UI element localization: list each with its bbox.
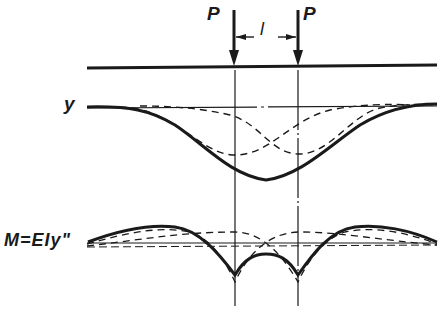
load-label-right: P (303, 4, 316, 23)
diagram-canvas: P P l y M=EIy" (0, 0, 445, 311)
spacing-label: l (260, 20, 264, 38)
beam-line (87, 65, 437, 68)
load-label-left: P (207, 4, 220, 23)
load-arrow-left (229, 10, 239, 66)
deflection-plot (87, 104, 437, 180)
spacing-dimension (236, 34, 296, 40)
load-arrow-right (293, 10, 303, 66)
moment-curve-total (88, 226, 437, 275)
moment-curve-right-load (87, 230, 437, 282)
deflection-axis-label: y (64, 94, 75, 113)
moment-plot (87, 226, 437, 282)
deflection-curve-left-load (120, 105, 410, 155)
deflection-curve-total (87, 104, 437, 180)
moment-axis-label: M=EIy" (4, 231, 71, 249)
beam-diagram (0, 0, 445, 311)
moment-curve-left-load (87, 230, 437, 282)
